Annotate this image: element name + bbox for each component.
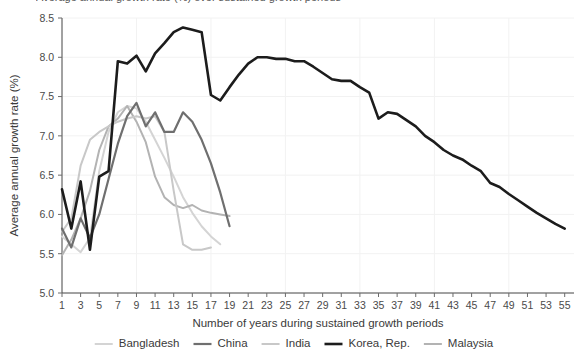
legend-label-china: China [217,337,248,349]
x-tick-label: 21 [242,299,254,311]
x-tick-label: 23 [261,299,273,311]
x-tick-label: 51 [522,299,534,311]
x-tick-label: 13 [168,299,180,311]
chart-container: Average annual growth rate (%) over sust… [0,0,588,357]
y-tick-label: 7.5 [39,90,54,102]
x-tick-label: 49 [503,299,515,311]
x-tick-label: 27 [298,299,310,311]
y-axis-title: Average annual growth rate (%) [8,74,20,236]
x-tick-label: 1 [59,299,65,311]
x-tick-label: 25 [280,299,292,311]
x-tick-label: 37 [391,299,403,311]
legend-label-korea-rep: Korea, Rep. [348,337,409,349]
x-tick-label: 33 [354,299,366,311]
y-tick-label: 7.0 [39,130,54,142]
x-tick-label: 7 [115,299,121,311]
x-tick-label: 53 [540,299,552,311]
x-tick-label: 47 [484,299,496,311]
line-chart: 5.05.56.06.57.07.58.08.51357911131517192… [0,0,588,357]
x-tick-label: 5 [96,299,102,311]
y-tick-label: 8.0 [39,51,54,63]
y-tick-label: 5.5 [39,248,54,260]
x-tick-label: 45 [466,299,478,311]
x-tick-label: 15 [186,299,198,311]
y-tick-label: 8.5 [39,12,54,24]
x-tick-label: 43 [447,299,459,311]
x-tick-label: 3 [78,299,84,311]
y-tick-label: 5.0 [39,287,54,299]
x-tick-label: 39 [410,299,422,311]
x-tick-label: 35 [373,299,385,311]
x-tick-label: 41 [429,299,441,311]
legend-label-malaysia: Malaysia [448,337,494,349]
y-tick-label: 6.0 [39,208,54,220]
x-axis-title: Number of years during sustained growth … [192,317,443,329]
legend-label-bangladesh: Bangladesh [119,337,180,349]
x-tick-label: 9 [134,299,140,311]
legend-label-india: India [286,337,312,349]
x-tick-label: 55 [559,299,571,311]
series-line-korea-rep [62,27,565,249]
x-tick-label: 31 [335,299,347,311]
x-tick-label: 29 [317,299,329,311]
y-tick-label: 6.5 [39,169,54,181]
x-tick-label: 19 [224,299,236,311]
x-tick-label: 17 [205,299,217,311]
x-tick-label: 11 [150,299,161,311]
